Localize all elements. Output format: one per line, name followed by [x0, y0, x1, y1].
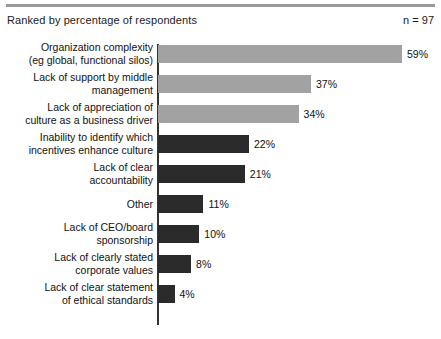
bar-category-label: Other [0, 198, 153, 211]
bar-value-label: 8% [196, 255, 211, 273]
bar-value-label: 22% [254, 135, 275, 153]
bar-segment[interactable] [158, 195, 203, 213]
bar-value-label: 10% [204, 225, 225, 243]
chart-figure: Ranked by percentage of respondents n = … [0, 0, 441, 339]
bar-value-label: 4% [180, 285, 195, 303]
bar-category-label: Lack of support by middle management [0, 71, 153, 97]
bar-segment[interactable] [158, 225, 199, 243]
bar-category-label: Lack of appreciation of culture as a bus… [0, 101, 153, 127]
bar-segment[interactable] [158, 165, 245, 183]
bar-row: Lack of clear statement of ethical stand… [0, 285, 441, 315]
bar-category-label: Lack of clearly stated corporate values [0, 251, 153, 277]
bar-category-label: Lack of clear statement of ethical stand… [0, 281, 153, 307]
bar-value-label: 11% [208, 195, 228, 213]
bar-value-label: 34% [304, 105, 325, 123]
bar-row: Lack of clear accountability21% [0, 165, 441, 195]
bar-segment[interactable] [158, 75, 311, 93]
bar-segment[interactable] [158, 135, 249, 153]
bar-segment[interactable] [158, 105, 299, 123]
bar-value-label: 59% [407, 45, 428, 63]
bar-value-label: 21% [250, 165, 271, 183]
bar-category-label: Lack of CEO/board sponsorship [0, 221, 153, 247]
sample-size-label: n = 97 [403, 14, 434, 26]
bar-segment[interactable] [158, 255, 191, 273]
top-divider [6, 4, 435, 7]
bar-segment[interactable] [158, 45, 402, 63]
bar-category-label: Lack of clear accountability [0, 161, 153, 187]
plot-area: Organization complexity (eg global, func… [0, 40, 441, 330]
bar-value-label: 37% [316, 75, 337, 93]
bar-category-label: Organization complexity (eg global, func… [0, 41, 153, 67]
chart-title: Ranked by percentage of respondents [7, 14, 197, 26]
chart-header: Ranked by percentage of respondents n = … [7, 14, 434, 30]
bar-category-label: Inability to identify which incentives e… [0, 131, 153, 157]
bar-segment[interactable] [158, 285, 175, 303]
